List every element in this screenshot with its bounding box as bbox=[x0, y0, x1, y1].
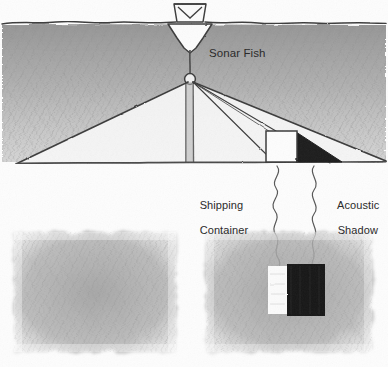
label-acoustic-shadow-line2: Shadow bbox=[338, 224, 378, 236]
container-acoustic-shadow bbox=[287, 264, 325, 316]
sonargram-empty-seafloor bbox=[14, 232, 176, 352]
label-sonar-fish: Sonar Fish bbox=[209, 47, 266, 60]
label-acoustic-shadow-line1: Acoustic bbox=[337, 199, 379, 211]
figure-artwork bbox=[0, 0, 388, 367]
label-shipping-container-line1: Shipping bbox=[200, 199, 244, 211]
sonar-figure: Sonar Fish Shipping Container Acoustic S… bbox=[0, 0, 388, 367]
shipping-container-box bbox=[266, 131, 297, 162]
sonargram-with-target bbox=[206, 232, 372, 352]
nadir-column bbox=[186, 82, 194, 163]
label-acoustic-shadow: Acoustic Shadow bbox=[325, 186, 379, 249]
label-shipping-container-line2: Container bbox=[200, 224, 249, 236]
container-acoustic-return bbox=[268, 266, 287, 314]
label-shipping-container: Shipping Container bbox=[187, 186, 248, 249]
